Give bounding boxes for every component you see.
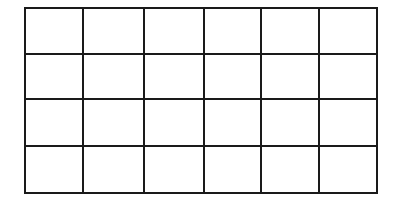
grid-cell [319, 146, 377, 193]
grid-cell [83, 8, 144, 54]
grid-cell [25, 99, 83, 146]
grid-cell [319, 54, 377, 99]
grid-cell [204, 146, 261, 193]
grid-cell [25, 54, 83, 99]
grid-cell [83, 146, 144, 193]
grid-cell [204, 8, 261, 54]
grid-lines [24, 7, 378, 194]
grid-cell [261, 99, 319, 146]
grid-cell [261, 146, 319, 193]
grid-cell [261, 54, 319, 99]
empty-grid-diagram [0, 0, 395, 203]
grid-cell [83, 54, 144, 99]
grid-cell [319, 8, 377, 54]
grid-cell [319, 99, 377, 146]
grid-cell [144, 54, 204, 99]
grid-cell [25, 146, 83, 193]
grid-cell [144, 99, 204, 146]
grid-cell [144, 8, 204, 54]
grid-cell [261, 8, 319, 54]
grid-cell [25, 8, 83, 54]
grid-cell [144, 146, 204, 193]
grid-cell [204, 54, 261, 99]
grid-cell [83, 99, 144, 146]
grid-cell [204, 99, 261, 146]
